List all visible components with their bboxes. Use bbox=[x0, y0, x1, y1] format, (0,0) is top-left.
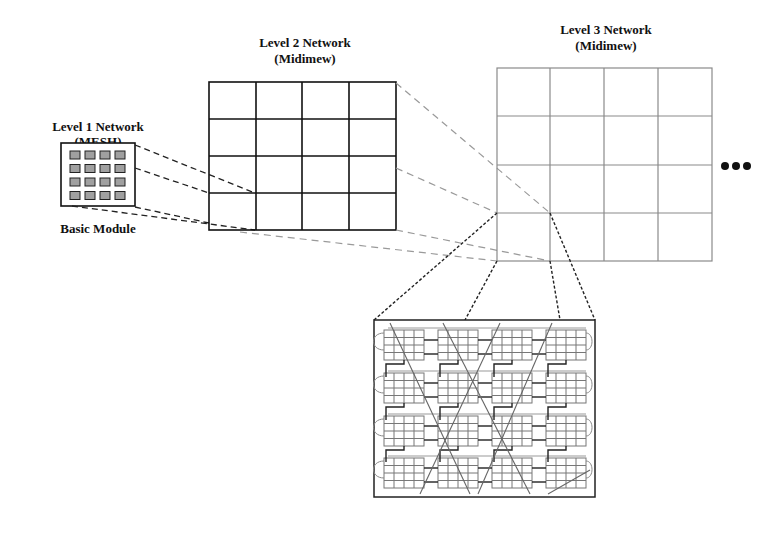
basic-module-caption: Basic Module bbox=[60, 221, 136, 236]
hierarchical-network-diagram: Level 1 Network (MESH) Basic Module Leve… bbox=[0, 0, 780, 534]
projection-lines-l2-l3 bbox=[240, 83, 550, 261]
level3-subtitle: (Midimew) bbox=[575, 38, 636, 53]
projection-lines-l3-expanded bbox=[374, 213, 595, 320]
level3-title: Level 3 Network bbox=[560, 22, 652, 37]
basic-module bbox=[61, 143, 135, 206]
level2-title: Level 2 Network bbox=[259, 35, 351, 50]
level3-grid bbox=[497, 68, 712, 261]
expanded-level2-view bbox=[374, 320, 596, 497]
level2-grid bbox=[209, 82, 396, 230]
continuation-ellipsis-icon bbox=[721, 162, 751, 170]
level1-title: Level 1 Network bbox=[52, 119, 144, 134]
level2-subtitle: (Midimew) bbox=[274, 51, 335, 66]
